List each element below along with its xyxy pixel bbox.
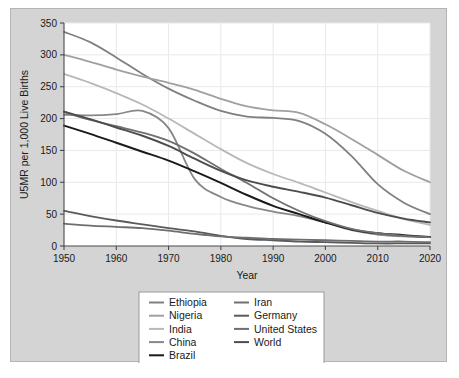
- legend-label: Nigeria: [169, 309, 202, 321]
- chart-figure-card: 0501001502002503003501950196019701980199…: [10, 8, 447, 362]
- legend-label: United States: [254, 323, 317, 335]
- legend-label: Iran: [254, 296, 272, 308]
- x-tick-label: 1950: [53, 253, 76, 264]
- legend-label: India: [169, 323, 192, 335]
- x-tick-label: 2010: [367, 253, 390, 264]
- x-tick-label: 1970: [157, 253, 180, 264]
- x-axis-title: Year: [236, 269, 258, 281]
- y-tick-label: 100: [40, 177, 57, 188]
- y-axis-title: U5MR per 1,000 Live Births: [18, 70, 30, 199]
- x-tick-label: 2020: [419, 253, 442, 264]
- y-tick-label: 300: [40, 49, 57, 60]
- x-tick-label: 2000: [314, 253, 337, 264]
- y-tick-label: 0: [51, 241, 57, 252]
- y-tick-label: 50: [46, 209, 58, 220]
- legend-label: Germany: [254, 309, 298, 321]
- legend-label: World: [254, 336, 281, 348]
- x-tick-label: 1980: [210, 253, 233, 264]
- plot-area: 0501001502002503003501950196019701980199…: [18, 18, 442, 363]
- y-tick-label: 250: [40, 81, 57, 92]
- y-tick-label: 150: [40, 145, 57, 156]
- x-tick-label: 1960: [105, 253, 128, 264]
- x-tick-label: 1990: [262, 253, 285, 264]
- y-tick-label: 200: [40, 113, 57, 124]
- legend-label: China: [169, 336, 197, 348]
- y-tick-label: 350: [40, 18, 57, 29]
- legend-label: Ethiopia: [169, 296, 207, 308]
- legend-label: Brazil: [169, 349, 195, 361]
- u5mr-line-chart: 0501001502002503003501950196019701980199…: [11, 9, 448, 363]
